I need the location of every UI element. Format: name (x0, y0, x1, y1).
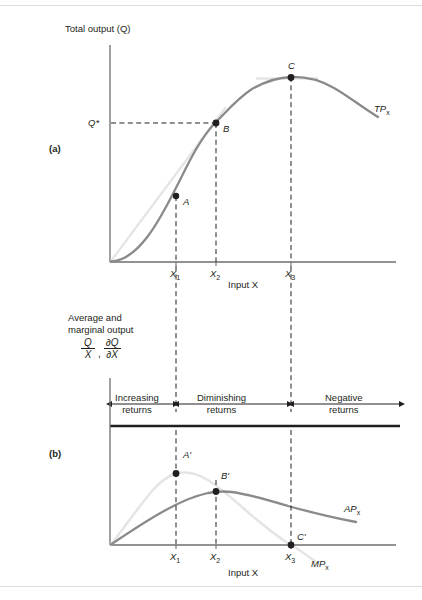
panel-b-point-A-prime-label: A' (183, 449, 191, 461)
panel-a-point-B (213, 120, 220, 127)
region-increasing-returns-line2: returns (115, 404, 159, 416)
panel-a-xtick-3: X3 (285, 268, 295, 283)
panel-a-point-C-label: C (288, 60, 295, 72)
formula-ap-numerator: Q (82, 337, 94, 348)
panel-a-tp-curve-label: TPx (374, 103, 390, 118)
tp-label-subscript: x (386, 109, 390, 116)
formula-average-product: Q X (81, 337, 95, 360)
panel-a-xtick-1-sub: 1 (176, 274, 180, 281)
panel-a-xtick-2-sub: 2 (216, 274, 220, 281)
panel-a-xtick-1: X1 (170, 268, 180, 283)
formula-mp-numerator: ∂Q (104, 337, 121, 348)
region-negative-returns-line2: returns (325, 404, 363, 416)
region-increasing-returns-line1: Increasing (115, 392, 159, 404)
panel-b-point-C-prime (288, 542, 295, 549)
region-diminishing-returns-line2: returns (197, 404, 246, 416)
panel-b-xtick-3: X3 (285, 551, 295, 566)
panel-a-point-C (288, 74, 295, 81)
figure-container: (a) (b) Total output (Q) Input X Q* TPx … (0, 0, 422, 600)
mp-label-subscript: x (325, 564, 329, 571)
panel-b-mp-curve (111, 472, 316, 562)
panel-b-formula: Q X , ∂Q ∂X (81, 337, 121, 360)
region-negative-returns-line1: Negative (325, 392, 363, 404)
formula-marginal-product: ∂Q ∂X (104, 337, 121, 360)
panel-b-y-axis-label-line1: Average and (68, 312, 122, 324)
panel-b-point-C-prime-label: C' (297, 531, 306, 543)
panel-a-point-A (173, 193, 179, 199)
region-increasing-returns: Increasing returns (115, 392, 159, 415)
panel-a-label: (a) (49, 143, 61, 155)
panel-b-ap-curve-label: APx (344, 503, 360, 518)
panel-b-xtick-1-sub: 1 (176, 557, 180, 564)
panel-b-xtick-2-sub: 2 (216, 557, 220, 564)
panel-b-x-axis-label: Input X (228, 567, 258, 579)
panel-b-xtick-2: X2 (210, 551, 220, 566)
formula-ap-denominator: X (83, 349, 94, 360)
panel-b-point-B-prime-label: B' (221, 470, 229, 482)
ap-label-subscript: x (357, 509, 361, 516)
formula-mp-denominator: ∂X (104, 349, 120, 360)
region-diminishing-returns: Diminishing returns (197, 392, 246, 415)
panel-a-x-axis-label: Input X (228, 279, 258, 291)
panel-b-xtick-3-sub: 3 (291, 557, 295, 564)
mp-label-text: MP (311, 558, 325, 569)
panel-a-xtick-2: X2 (210, 268, 220, 283)
region-negative-returns: Negative returns (325, 392, 363, 415)
panel-b-point-B-prime (213, 488, 220, 495)
ap-label-text: AP (344, 503, 357, 514)
panel-b-y-axis-label-line2: marginal output (68, 324, 133, 336)
panel-a-xtick-3-sub: 3 (291, 274, 295, 281)
region-diminishing-returns-line1: Diminishing (197, 392, 246, 404)
tp-label-text: TP (374, 103, 386, 114)
panel-a-qstar-label: Q* (88, 117, 99, 129)
panel-a-point-A-label: A (183, 196, 189, 208)
panel-b-label: (b) (49, 448, 61, 460)
panel-a-point-B-label: B (223, 123, 229, 135)
panel-b-point-A-prime (173, 470, 180, 477)
panel-b-mp-curve-label: MPx (311, 558, 329, 573)
panel-a-tp-curve (111, 77, 378, 262)
formula-comma: , (98, 348, 101, 360)
panel-a-y-axis-label: Total output (Q) (65, 23, 130, 35)
panel-b-xtick-1: X1 (170, 551, 180, 566)
